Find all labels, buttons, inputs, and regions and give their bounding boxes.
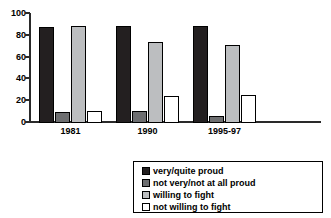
bar bbox=[193, 26, 208, 123]
bars-layer bbox=[31, 0, 321, 123]
bar bbox=[241, 95, 256, 123]
y-tick-label: 40 bbox=[0, 74, 26, 83]
legend-swatch-icon bbox=[142, 167, 150, 175]
legend-item: very/quite proud bbox=[142, 165, 256, 176]
legend-item: not very/not at all proud bbox=[142, 177, 256, 188]
bar bbox=[71, 26, 86, 123]
legend-swatch-icon bbox=[142, 191, 150, 199]
bar bbox=[148, 42, 163, 123]
legend: very/quite proudnot very/not at all prou… bbox=[133, 161, 323, 213]
y-tick-label: 0 bbox=[0, 118, 26, 127]
y-tick-label: 100 bbox=[0, 9, 26, 18]
bar bbox=[55, 112, 70, 123]
bar bbox=[132, 111, 147, 123]
bar bbox=[116, 26, 131, 123]
y-tick-mark bbox=[25, 121, 30, 123]
y-tick-mark bbox=[25, 34, 30, 36]
legend-label: not very/not at all proud bbox=[153, 178, 256, 188]
legend-label: very/quite proud bbox=[153, 166, 224, 176]
plot-area: 100806040200 198119901995-97 bbox=[0, 0, 331, 150]
y-tick-label: 80 bbox=[0, 31, 26, 40]
legend-item: not willing to fight bbox=[142, 201, 256, 212]
y-tick-mark bbox=[25, 12, 30, 14]
bar bbox=[87, 111, 102, 123]
x-tick-label: 1981 bbox=[27, 126, 114, 137]
legend-swatch-icon bbox=[142, 203, 150, 211]
y-tick-mark bbox=[25, 56, 30, 58]
bar bbox=[209, 116, 224, 123]
legend-item: willing to fight bbox=[142, 189, 256, 200]
bar bbox=[39, 27, 54, 123]
y-tick-mark bbox=[25, 99, 30, 101]
y-tick-label: 60 bbox=[0, 53, 26, 62]
legend-label: not willing to fight bbox=[153, 202, 230, 212]
x-tick-label: 1990 bbox=[104, 126, 191, 137]
y-axis: 100806040200 bbox=[0, 0, 26, 150]
legend-swatch-icon bbox=[142, 179, 150, 187]
x-axis: 198119901995-97 bbox=[31, 126, 321, 144]
legend-items: very/quite proudnot very/not at all prou… bbox=[142, 165, 256, 213]
bar bbox=[164, 96, 179, 123]
bar-chart: 100806040200 198119901995-97 very/quite … bbox=[0, 0, 331, 218]
bar bbox=[225, 45, 240, 123]
y-tick-label: 20 bbox=[0, 96, 26, 105]
legend-label: willing to fight bbox=[153, 190, 214, 200]
y-tick-mark bbox=[25, 77, 30, 79]
x-tick-label: 1995-97 bbox=[181, 126, 268, 137]
